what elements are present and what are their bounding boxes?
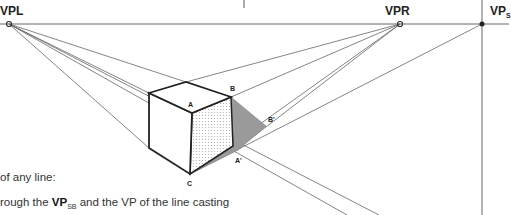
- vps-label: VPS: [490, 4, 511, 19]
- text-line-1: of any line:: [0, 171, 56, 183]
- point-a-label: A: [188, 101, 193, 108]
- point-b-label: B: [230, 85, 235, 92]
- point-c-label: C: [187, 180, 192, 187]
- vpr-label: VPR: [385, 4, 410, 18]
- point-a-prime-label: A': [235, 157, 242, 164]
- point-b-prime-label: B': [268, 116, 275, 123]
- vps-marker: [480, 22, 485, 27]
- vpl-label: VPL: [0, 4, 23, 18]
- text-line-2: rough the VPSB and the VP of the line ca…: [0, 196, 229, 210]
